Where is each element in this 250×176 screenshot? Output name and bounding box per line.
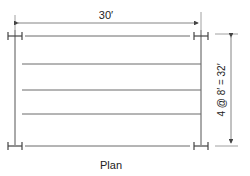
floor-plan-diagram: 30′ 4 @ 8′ = 32′ Plan (0, 0, 250, 176)
column-symbols (8, 32, 208, 150)
span-label: 30′ (99, 9, 113, 21)
girders (15, 30, 201, 145)
spacing-label: 4 @ 8′ = 32′ (216, 63, 227, 116)
plan-title: Plan (100, 159, 122, 171)
beams (22, 36, 201, 146)
span-dimension: 30′ (15, 9, 201, 30)
spacing-dimension: 4 @ 8′ = 32′ (215, 34, 238, 146)
